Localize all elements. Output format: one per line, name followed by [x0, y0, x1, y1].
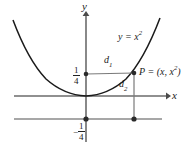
d2-label: d2 — [119, 79, 127, 92]
segment-d1 — [86, 73, 134, 74]
y-axis-label: y — [82, 1, 87, 12]
focus-point-dot — [84, 72, 89, 77]
curve-equation-exponent: 2 — [139, 29, 142, 36]
point-p-label: P = (x, x2) — [139, 66, 181, 77]
d2-label-subscript: 2 — [124, 85, 127, 92]
directrix-origin-dot — [83, 116, 88, 121]
point-p-dot — [132, 71, 137, 76]
curve-equation-text: y = x — [118, 31, 139, 42]
focus-value-label: 14 — [73, 66, 80, 86]
curve-equation-label: y = x2 — [118, 31, 142, 42]
x-axis-arrowhead — [166, 93, 171, 100]
point-p-label-exponent: 2 — [174, 64, 177, 71]
parabola-figure: y x y = x2 d1 d2 P = (x, x2) 14 −14 — [0, 0, 189, 149]
point-p-label-close: ) — [177, 66, 180, 77]
directrix-fraction-denominator: 4 — [78, 132, 85, 142]
x-axis-label: x — [172, 90, 177, 101]
directrix-value-label: −14 — [73, 122, 85, 142]
d1-label-subscript: 1 — [109, 61, 112, 68]
directrix-foot-dot — [131, 116, 136, 121]
directrix-negative-fraction: −14 — [73, 122, 85, 142]
d1-label: d1 — [104, 55, 112, 68]
directrix-minus-sign: − — [73, 128, 78, 137]
focus-fraction-denominator: 4 — [73, 76, 80, 86]
focus-fraction: 14 — [73, 66, 80, 86]
focus-fraction-numerator: 1 — [73, 66, 80, 76]
point-p-label-text: P = (x, x — [139, 66, 174, 77]
directrix-fraction-numerator: 1 — [78, 122, 85, 132]
directrix-fraction: 14 — [78, 122, 85, 142]
